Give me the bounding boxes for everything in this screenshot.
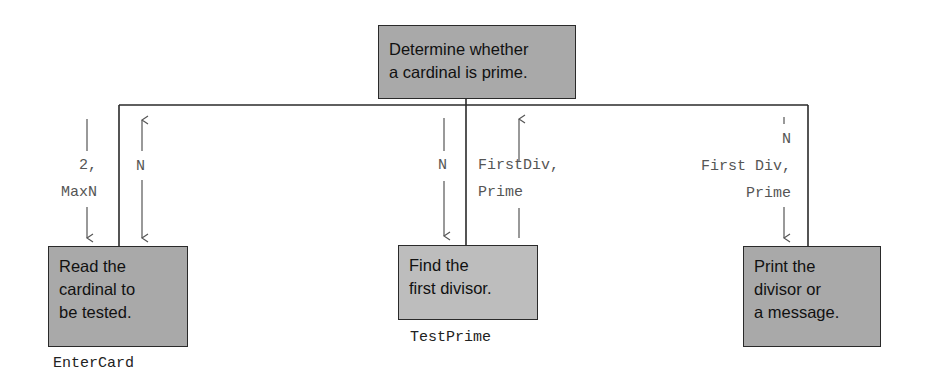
module-name-testprime: TestPrime [410,324,491,351]
flow-label-n-in-middle: N [438,152,447,179]
root-module-box: Determine whether a cardinal is prime. [378,25,576,99]
module-box-entercard: Read the cardinal to be tested. [48,246,188,347]
module-box-testprime: Find the first divisor. [398,245,538,320]
flow-label-2-maxn: 2, MaxN [40,152,97,206]
flow-label-n-firstdiv-prime: N First Div, Prime [670,126,791,207]
flow-label-firstdiv-prime: FirstDiv, Prime [478,152,559,206]
flow-label-n-out-left: N [136,153,145,180]
structure-chart: Determine whether a cardinal is prime. R… [0,0,925,379]
module-box-print: Print the divisor or a message. [743,246,881,347]
module-name-entercard: EnterCard [53,350,134,377]
